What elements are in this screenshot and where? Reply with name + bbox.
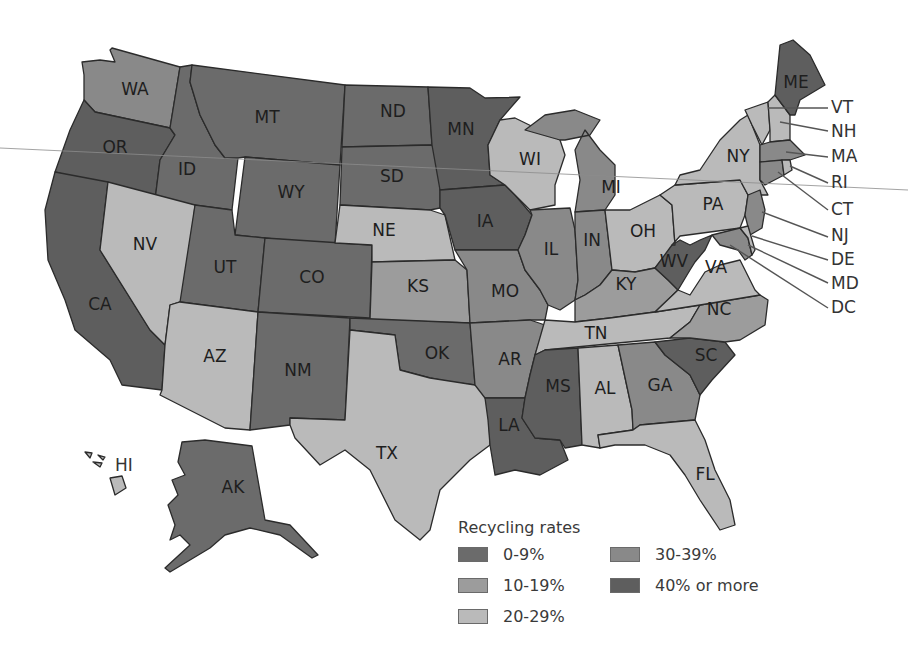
label-NV: NV <box>133 234 158 254</box>
label-WY: WY <box>277 182 305 202</box>
label-NE: NE <box>372 220 395 240</box>
legend-swatch <box>458 609 488 624</box>
label-LA: LA <box>498 415 520 435</box>
label-MS: MS <box>545 376 570 396</box>
label-ND: ND <box>380 101 406 121</box>
legend-item-10-19: 10-19% <box>458 576 565 595</box>
legend-item-20-29: 20-29% <box>458 607 565 626</box>
label-WV: WV <box>660 251 689 271</box>
label-TX: TX <box>375 443 398 463</box>
label-HI: HI <box>115 455 133 475</box>
legend-item-0-9: 0-9% <box>458 545 544 564</box>
legend-item-30-39: 30-39% <box>610 545 717 564</box>
legend-label: 0-9% <box>503 545 544 564</box>
label-PA: PA <box>703 194 724 214</box>
label-MD: MD <box>831 273 859 293</box>
state-RI[interactable] <box>782 160 792 175</box>
label-KY: KY <box>616 274 638 294</box>
label-SD: SD <box>380 166 404 186</box>
label-RI: RI <box>831 172 848 192</box>
label-ID: ID <box>178 159 196 179</box>
label-MI: MI <box>601 177 621 197</box>
label-NY: NY <box>726 146 750 166</box>
legend-label: 40% or more <box>655 576 759 595</box>
label-NM: NM <box>284 360 311 380</box>
label-TN: TN <box>583 323 607 343</box>
label-MA: MA <box>831 146 858 166</box>
legend-title: Recycling rates <box>458 518 580 537</box>
label-CT: CT <box>831 199 854 219</box>
label-NH: NH <box>831 121 857 141</box>
label-AZ: AZ <box>203 346 226 366</box>
label-IN: IN <box>583 230 601 250</box>
legend-label: 30-39% <box>655 545 717 564</box>
label-UT: UT <box>214 257 237 277</box>
label-NJ: NJ <box>831 225 849 245</box>
label-VT: VT <box>831 97 854 117</box>
label-IL: IL <box>544 239 559 259</box>
legend-swatch <box>458 547 488 562</box>
legend-swatch <box>610 547 640 562</box>
label-GA: GA <box>648 375 673 395</box>
label-OH: OH <box>630 221 656 241</box>
label-NC: NC <box>707 299 732 319</box>
label-FL: FL <box>695 464 715 484</box>
label-IA: IA <box>477 211 494 231</box>
label-OK: OK <box>425 343 450 363</box>
label-ME: ME <box>783 72 808 92</box>
label-SC: SC <box>695 345 718 365</box>
legend-swatch <box>458 578 488 593</box>
legend-item-40-plus: 40% or more <box>610 576 759 595</box>
label-AK: AK <box>222 477 246 497</box>
label-MN: MN <box>447 119 474 139</box>
legend-label: 10-19% <box>503 576 565 595</box>
legend: Recycling rates 0-9% 10-19% 20-29% 30-39… <box>458 518 798 648</box>
label-MO: MO <box>491 281 519 301</box>
label-CA: CA <box>88 294 112 314</box>
label-CO: CO <box>299 267 324 287</box>
state-AK[interactable] <box>165 440 318 572</box>
legend-swatch <box>610 578 640 593</box>
state-CT[interactable] <box>760 160 784 185</box>
label-VA: VA <box>705 257 728 277</box>
label-MT: MT <box>254 107 280 127</box>
label-DE: DE <box>831 249 855 269</box>
label-DC: DC <box>831 297 856 317</box>
state-AZ[interactable] <box>160 302 258 430</box>
state-MA[interactable] <box>760 140 805 162</box>
label-KS: KS <box>407 276 429 296</box>
label-AR: AR <box>498 349 522 369</box>
label-WI: WI <box>519 149 541 169</box>
label-AL: AL <box>594 378 616 398</box>
label-WA: WA <box>121 79 149 99</box>
label-OR: OR <box>102 137 127 157</box>
legend-label: 20-29% <box>503 607 565 626</box>
